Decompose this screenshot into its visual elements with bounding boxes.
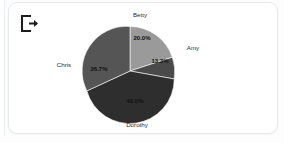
- category-label-chris: Chris: [57, 61, 71, 68]
- slice-percent-betty: 20.0%: [133, 35, 151, 41]
- category-label-betty: Betty: [133, 11, 148, 18]
- category-label-dorothy: Dorothy: [126, 121, 149, 128]
- slice-percent-dorothy: 40.0%: [126, 98, 144, 104]
- slice-percent-chris: 26.7%: [90, 66, 108, 72]
- pie-chart: 20.0% 13.3% 40.0% 26.7% Betty Amy Doroth…: [9, 3, 277, 133]
- category-label-amy: Amy: [187, 44, 200, 51]
- slice-percent-amy: 13.3%: [151, 58, 169, 64]
- left-edge-strip: [0, 0, 5, 136]
- chart-card: 20.0% 13.3% 40.0% 26.7% Betty Amy Doroth…: [8, 2, 278, 134]
